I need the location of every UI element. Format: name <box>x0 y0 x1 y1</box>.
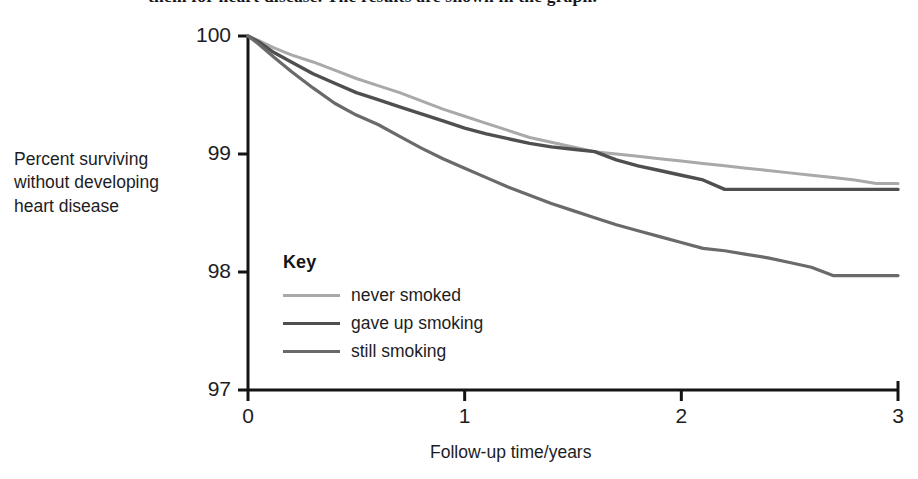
legend-item-still-smoking: still smoking <box>283 337 483 365</box>
legend-item-gave-up-smoking: gave up smoking <box>283 309 483 337</box>
x-axis-title: Follow-up time/years <box>430 442 591 463</box>
x-tick-label: 3 <box>883 404 913 428</box>
x-tick-label: 1 <box>450 404 480 428</box>
y-axis-title-line-2: without developing <box>14 171 192 194</box>
x-tick-label: 2 <box>666 404 696 428</box>
legend-item-label: gave up smoking <box>351 313 483 334</box>
y-axis-title: Percent surviving without developing hea… <box>14 148 192 218</box>
legend-item-never-smoked: never smoked <box>283 281 483 309</box>
data-series <box>248 36 898 276</box>
y-tick-label: 97 <box>185 377 231 401</box>
survival-curve-figure: 100 99 98 97 0 1 2 3 Percent surviving w… <box>0 0 918 479</box>
x-tick-label: 0 <box>233 404 263 428</box>
series-line-gave-up-smoking <box>248 36 898 189</box>
legend-line-swatch-icon <box>283 350 340 353</box>
y-axis-title-line-3: heart disease <box>14 195 192 218</box>
legend-item-label: never smoked <box>351 285 461 306</box>
legend-line-swatch-icon <box>283 294 340 297</box>
y-axis-title-line-1: Percent surviving <box>14 148 192 171</box>
legend-item-label: still smoking <box>351 341 446 362</box>
series-line-still-smoking <box>248 36 898 276</box>
legend-line-swatch-icon <box>283 322 340 325</box>
y-tick-label: 100 <box>185 23 231 47</box>
chart-legend: Key never smoked gave up smoking still s… <box>283 252 483 365</box>
y-tick-label: 98 <box>185 259 231 283</box>
legend-title: Key <box>283 252 483 273</box>
